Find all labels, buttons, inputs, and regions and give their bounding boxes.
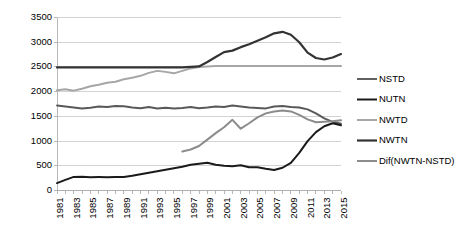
y-axis-tick-label: 1000 <box>31 135 52 146</box>
legend-label-dif-nwtn-nstd: Dif(NWTN-NSTD) <box>379 155 454 166</box>
x-axis-labels: 1981198319851987198919911993199519971999… <box>54 198 349 219</box>
y-axis-tick-label: 1500 <box>31 110 52 121</box>
x-axis-tick-label: 1997 <box>188 198 199 219</box>
chart-legend: NSTDNUTNNWTDNWTNDif(NWTN-NSTD) <box>357 73 454 166</box>
y-axis-labels: 0500100015002000250030003500 <box>31 11 52 195</box>
x-axis-tick-label: 1985 <box>87 198 98 219</box>
y-axis-tick-label: 500 <box>36 159 52 170</box>
series-line-nutn <box>57 123 341 183</box>
x-axis-tick-label: 1995 <box>171 198 182 219</box>
x-axis-tick-label: 1999 <box>204 198 215 219</box>
x-axis-tick-label: 1983 <box>71 198 82 219</box>
x-axis-tick-label: 2007 <box>271 198 282 219</box>
series-layer <box>57 32 341 183</box>
y-axis-tick-label: 2000 <box>31 85 52 96</box>
axes-layer <box>54 18 342 195</box>
x-axis-tick-label: 1981 <box>54 198 65 219</box>
x-axis-tick-label: 2011 <box>305 198 316 218</box>
x-axis-tick-label: 1989 <box>121 198 132 219</box>
chart-figure: 0500100015002000250030003500 19811983198… <box>0 0 473 243</box>
y-axis-tick-label: 2500 <box>31 60 52 71</box>
x-axis-tick-label: 1987 <box>104 198 115 219</box>
x-axis-tick-label: 2013 <box>321 198 332 219</box>
x-axis-tick-label: 2003 <box>238 198 249 219</box>
legend-label-nutn: NUTN <box>379 93 406 104</box>
legend-label-nwtn: NWTN <box>379 134 408 145</box>
line-chart: 0500100015002000250030003500 19811983198… <box>0 0 473 243</box>
x-axis-tick-label: 2001 <box>221 198 232 219</box>
y-axis-tick-label: 3000 <box>31 36 52 47</box>
series-line-nwtd <box>57 66 341 91</box>
legend-label-nwtd: NWTD <box>379 114 408 125</box>
x-axis-tick-label: 1993 <box>154 198 165 219</box>
legend-label-nstd: NSTD <box>379 73 405 84</box>
x-axis-tick-label: 2015 <box>338 198 349 219</box>
y-axis-tick-label: 0 <box>47 184 52 195</box>
x-axis-tick-label: 2009 <box>288 198 299 219</box>
x-axis-tick-label: 2005 <box>254 198 265 219</box>
y-axis-tick-label: 3500 <box>31 11 52 22</box>
series-line-nwtn <box>57 32 341 68</box>
x-axis-tick-label: 1991 <box>138 198 149 219</box>
